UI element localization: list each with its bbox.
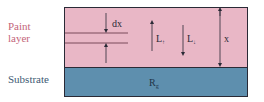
dx-symbol: dx <box>112 18 122 29</box>
substrate-region <box>65 68 248 97</box>
x-symbol: x <box>224 33 229 44</box>
paint-layer-diagram: dx L↑ L↓ x Rg <box>0 0 264 102</box>
